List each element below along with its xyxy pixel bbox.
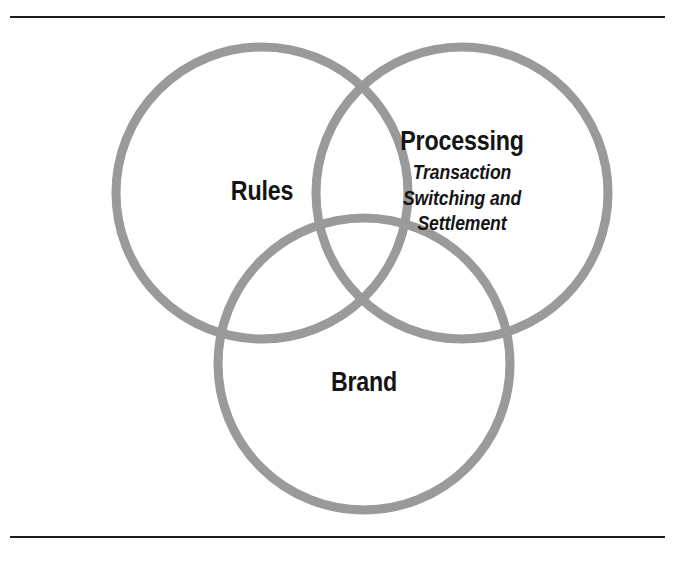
venn-label-processing: Processing Transaction Switching and Set… [372,128,552,237]
venn-circles-canvas [0,0,673,561]
venn-label-processing-subtext-line-1: Transaction [383,160,541,186]
venn-circle-brand [218,218,510,510]
venn-label-processing-subtext-line-2: Switching and [383,186,541,212]
venn-label-processing-subtext: Transaction Switching and Settlement [383,160,541,237]
venn-label-processing-subtext-line-3: Settlement [383,211,541,237]
venn-label-brand-heading: Brand [287,369,442,396]
bottom-divider-rule [10,536,665,538]
venn-label-rules-heading: Rules [185,178,340,205]
venn-diagram-figure: Rules Processing Transaction Switching a… [0,0,673,561]
venn-label-rules: Rules [172,178,352,205]
venn-label-brand: Brand [274,369,454,396]
venn-label-processing-heading: Processing [385,128,540,155]
